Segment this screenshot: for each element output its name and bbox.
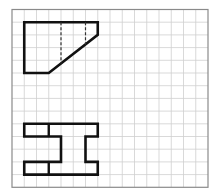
projection-drawing xyxy=(0,0,218,195)
